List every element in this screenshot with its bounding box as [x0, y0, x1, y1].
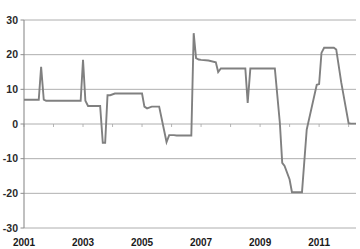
svg-text:-20: -20: [3, 187, 18, 199]
svg-text:-10: -10: [3, 152, 18, 164]
gridlines: [24, 20, 356, 228]
x-tick-marks: [24, 124, 349, 127]
svg-text:20: 20: [6, 48, 18, 60]
svg-text:2005: 2005: [131, 237, 154, 248]
y-axis-line: [21, 20, 25, 228]
svg-text:10: 10: [6, 83, 18, 95]
svg-text:2007: 2007: [190, 237, 213, 248]
chart-title: [30, 0, 260, 6]
svg-text:2001: 2001: [13, 237, 36, 248]
svg-text:0: 0: [12, 118, 18, 130]
svg-text:2011: 2011: [308, 237, 330, 248]
svg-text:-30: -30: [3, 222, 18, 234]
svg-text:30: 30: [6, 14, 18, 26]
svg-text:2009: 2009: [249, 237, 272, 248]
data-series-line: [24, 33, 356, 192]
y-axis-labels: 3020100-10-20-30: [3, 14, 18, 234]
line-chart: 3020100-10-20-30 20012003200520072009201…: [0, 0, 360, 249]
chart-container: 3020100-10-20-30 20012003200520072009201…: [0, 0, 360, 249]
x-axis-labels: 200120032005200720092011: [13, 237, 331, 248]
svg-text:2003: 2003: [72, 237, 95, 248]
